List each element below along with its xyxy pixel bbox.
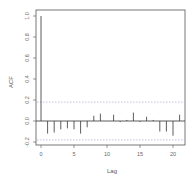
y-axis-label: ACF bbox=[8, 76, 14, 88]
acf-bars bbox=[41, 16, 180, 136]
x-tick-label: 5 bbox=[72, 151, 75, 157]
y-axis: -0.20.00.20.40.60.81.0 bbox=[24, 12, 36, 147]
x-tick-label: 0 bbox=[39, 151, 42, 157]
acf-chart: -0.20.00.20.40.60.81.0 05101520 Lag ACF bbox=[0, 0, 195, 181]
x-tick-label: 15 bbox=[137, 151, 143, 157]
y-tick-label: 0.2 bbox=[24, 96, 30, 104]
x-tick-label: 10 bbox=[104, 151, 110, 157]
x-axis: 05101520 bbox=[39, 145, 176, 157]
y-tick-label: 0.8 bbox=[24, 33, 30, 41]
y-tick-label: 0.4 bbox=[24, 75, 30, 83]
plot-frame bbox=[36, 10, 185, 145]
y-tick-label: -0.2 bbox=[24, 137, 30, 146]
y-tick-label: 1.0 bbox=[24, 12, 30, 20]
y-tick-label: 0.0 bbox=[24, 117, 30, 125]
y-tick-label: 0.6 bbox=[24, 54, 30, 62]
x-axis-label: Lag bbox=[107, 168, 117, 174]
x-tick-label: 20 bbox=[170, 151, 176, 157]
